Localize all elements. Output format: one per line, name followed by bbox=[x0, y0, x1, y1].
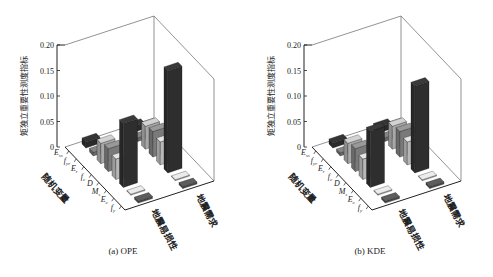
x-tick-label-sub: c bbox=[353, 200, 356, 205]
x-tick bbox=[314, 151, 316, 154]
x-tick bbox=[112, 198, 114, 201]
chart-caption-kde: (b) KDE bbox=[247, 246, 493, 256]
bar-side-face bbox=[142, 122, 146, 149]
bar-side-face bbox=[120, 120, 124, 188]
x-tick-label: Er bbox=[317, 164, 325, 174]
bar-side-face bbox=[97, 139, 101, 163]
x-tick-label: fyr bbox=[311, 156, 317, 166]
x-tick-label-sub: yr bbox=[65, 161, 70, 166]
x-tick bbox=[119, 206, 121, 209]
bar-side-face bbox=[396, 128, 400, 157]
x-tick-label-sub: c bbox=[330, 177, 333, 182]
x-tick bbox=[321, 159, 323, 162]
z-tick-label: 0.10 bbox=[40, 92, 54, 101]
x-tick-label: fyr bbox=[64, 156, 70, 166]
row-label: 地震需求 bbox=[194, 192, 221, 230]
x-tick bbox=[89, 175, 91, 178]
x-axis-label: 随机变量 bbox=[39, 171, 72, 205]
x-tick-label-sub: y bbox=[112, 208, 116, 213]
x-tick-label-sub: r bbox=[76, 169, 78, 174]
x-tick bbox=[351, 190, 353, 193]
row-label: 地震需求 bbox=[441, 192, 468, 230]
x-tick-label-sub: c bbox=[83, 177, 86, 182]
z-axis-label: 矩独立重要性测度指标 bbox=[266, 56, 276, 136]
bar-side-face bbox=[359, 155, 363, 179]
top-left-edge bbox=[312, 16, 401, 45]
x-tick-label-sub: yr bbox=[312, 161, 317, 166]
z-tick-label: 0.05 bbox=[287, 118, 301, 127]
bar-side-face bbox=[352, 145, 356, 172]
bar-side-face bbox=[367, 127, 371, 187]
x-tick bbox=[329, 167, 331, 170]
z-tick-label: 0.20 bbox=[40, 41, 54, 50]
x-tick-label: Ec bbox=[347, 195, 356, 205]
x-tick bbox=[359, 198, 361, 201]
x-tick-label: Ms bbox=[338, 187, 348, 197]
bar-地震需求-Mₛ bbox=[164, 62, 182, 173]
bar-front-face bbox=[415, 82, 429, 173]
bar-地震需求-E_c bbox=[172, 171, 190, 181]
bar-side-face bbox=[344, 139, 348, 163]
x-tick-label: fc bbox=[81, 172, 86, 182]
row-label: 地震易损性 bbox=[396, 207, 426, 252]
bar-side-face bbox=[164, 67, 168, 173]
bar-side-face bbox=[404, 138, 408, 165]
x-tick-label-sub: y bbox=[359, 208, 363, 213]
chart-box-frame bbox=[312, 16, 461, 181]
chart-3d-bar-kde: 00.050.100.150.20矩独立重要性测度指标EssfyrErfcDMs… bbox=[247, 0, 493, 277]
bar-side-face bbox=[149, 128, 153, 157]
x-tick-label: Ms bbox=[91, 187, 101, 197]
x-tick-label: Ess bbox=[300, 148, 310, 158]
chart-panel-ope: 00.050.100.150.20矩独立重要性测度指标EssfyrErfcDMs… bbox=[0, 0, 246, 277]
bar-front-face bbox=[168, 66, 182, 173]
x-tick-label: Ec bbox=[100, 195, 109, 205]
bar-side-face bbox=[411, 82, 415, 173]
chart-box-frame bbox=[65, 16, 214, 181]
x-tick-label-sub: ss bbox=[59, 153, 63, 158]
z-tick-label: 0.20 bbox=[287, 41, 301, 50]
chart-plot-area: 00.050.100.150.20矩独立重要性测度指标EssfyrErfcDMs… bbox=[266, 16, 468, 252]
x-axis-label: 随机变量 bbox=[286, 171, 319, 205]
row-label: 地震易损性 bbox=[149, 207, 179, 252]
x-tick bbox=[67, 151, 69, 154]
bar-地震需求-Mₛ bbox=[411, 78, 429, 173]
chart-3d-bar-ope: 00.050.100.150.20矩独立重要性测度指标EssfyrErfcDMs… bbox=[0, 0, 246, 277]
x-tick bbox=[97, 182, 99, 185]
x-tick-label: Er bbox=[70, 164, 78, 174]
x-tick-label: fy bbox=[111, 203, 116, 213]
z-tick-label: 0.05 bbox=[40, 118, 54, 127]
top-right-edge bbox=[154, 16, 214, 79]
x-tick bbox=[344, 182, 346, 185]
chart-caption-ope: (a) OPE bbox=[0, 246, 246, 256]
x-tick bbox=[336, 175, 338, 178]
z-axis-label: 矩独立重要性测度指标 bbox=[19, 56, 29, 136]
top-left-edge bbox=[65, 16, 154, 45]
bar-地震易损性-E_c bbox=[374, 186, 392, 196]
bar-front-face bbox=[123, 119, 137, 187]
bar-side-face bbox=[105, 145, 109, 172]
x-tick-label: Ess bbox=[53, 148, 63, 158]
x-tick-label: fc bbox=[328, 172, 333, 182]
bar-地震易损性-Mₛ bbox=[120, 115, 138, 187]
x-tick-label-sub: r bbox=[323, 169, 325, 174]
z-tick-label: 0.15 bbox=[40, 67, 54, 76]
x-tick bbox=[74, 159, 76, 162]
z-tick-label: 0.10 bbox=[287, 92, 301, 101]
x-tick-label: fy bbox=[358, 203, 363, 213]
x-tick bbox=[366, 206, 368, 209]
z-tick-label: 0.15 bbox=[287, 67, 301, 76]
top-right-edge bbox=[401, 16, 461, 79]
x-tick-label-sub: ss bbox=[306, 153, 310, 158]
bar-地震易损性-Mₛ bbox=[367, 123, 385, 188]
bar-side-face bbox=[112, 155, 116, 179]
x-tick bbox=[104, 190, 106, 193]
bar-地震需求-E_c bbox=[419, 171, 437, 181]
x-tick bbox=[82, 167, 84, 170]
bar-side-face bbox=[389, 122, 393, 149]
chart-plot-area: 00.050.100.150.20矩独立重要性测度指标EssfyrErfcDMs… bbox=[19, 16, 221, 252]
bar-地震易损性-E_c bbox=[127, 186, 145, 196]
bar-side-face bbox=[157, 138, 161, 165]
bar-front-face bbox=[370, 127, 384, 188]
x-tick-label-sub: c bbox=[106, 200, 109, 205]
chart-panel-kde: 00.050.100.150.20矩独立重要性测度指标EssfyrErfcDMs… bbox=[247, 0, 493, 277]
